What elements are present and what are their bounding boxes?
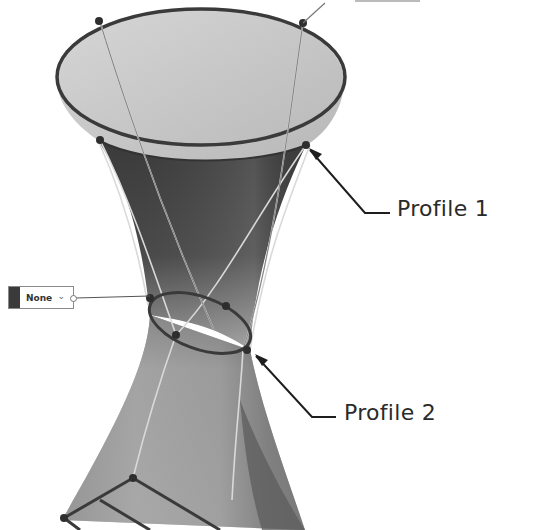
connector-port[interactable] xyxy=(70,295,77,302)
loft-surface xyxy=(57,10,344,530)
chevron-down-icon[interactable]: ⌄ xyxy=(57,291,65,301)
dropdown-color-swatch xyxy=(9,287,20,308)
callout-profile-2: Profile 2 xyxy=(344,400,436,425)
dropdown-value: None xyxy=(26,293,52,303)
callout-profile-1: Profile 1 xyxy=(397,196,489,221)
loft-diagram xyxy=(0,0,538,530)
mapping-dropdown[interactable]: None ⌄ xyxy=(8,286,74,309)
